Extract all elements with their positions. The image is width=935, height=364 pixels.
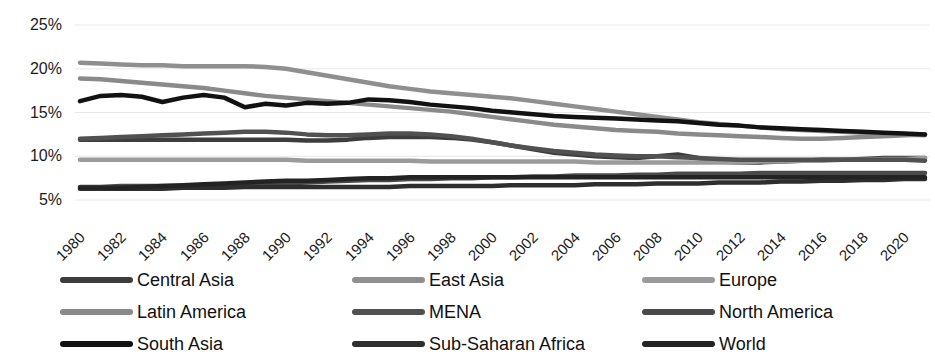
y-tick-label: 15% (30, 105, 62, 121)
legend-label: Central Asia (137, 271, 234, 289)
legend-swatch-icon (60, 341, 133, 347)
plot-canvas (75, 0, 930, 215)
legend-item[interactable]: Latin America (60, 303, 352, 321)
x-tick-label: 2002 (507, 229, 541, 263)
legend-label: Europe (719, 271, 777, 289)
x-tick-label: 2020 (878, 229, 912, 263)
legend-item[interactable]: Europe (642, 271, 880, 289)
y-axis-labels: 25%20%15%10%5% (0, 0, 70, 215)
x-tick-label: 1988 (218, 229, 252, 263)
legend-item[interactable]: North America (642, 303, 880, 321)
legend-label: North America (719, 303, 833, 321)
x-tick-label: 1998 (424, 229, 458, 263)
x-tick-label: 2006 (589, 229, 623, 263)
x-tick-label: 1996 (383, 229, 417, 263)
x-tick-label: 1994 (342, 229, 376, 263)
y-tick-label: 20% (30, 61, 62, 77)
x-tick-label: 1980 (53, 229, 87, 263)
x-tick-label: 2010 (671, 229, 705, 263)
x-tick-label: 1984 (136, 229, 170, 263)
legend-item[interactable]: South Asia (60, 335, 352, 353)
chart-legend: Central AsiaEast AsiaEuropeLatin America… (60, 264, 880, 360)
legend-swatch-icon (642, 341, 715, 347)
x-tick-label: 1986 (177, 229, 211, 263)
x-tick-label: 2018 (836, 229, 870, 263)
legend-item[interactable]: MENA (352, 303, 642, 321)
legend-swatch-icon (642, 277, 715, 283)
x-tick-label: 2012 (713, 229, 747, 263)
legend-item[interactable]: World (642, 335, 880, 353)
legend-label: MENA (429, 303, 481, 321)
y-tick-label: 10% (30, 148, 62, 164)
x-tick-label: 2008 (630, 229, 664, 263)
plot-area: 25%20%15%10%5% (0, 0, 935, 215)
y-tick-label: 5% (39, 192, 62, 208)
legend-swatch-icon (352, 277, 425, 283)
legend-item[interactable]: Central Asia (60, 271, 352, 289)
x-tick-label: 2016 (795, 229, 829, 263)
legend-swatch-icon (60, 309, 133, 315)
legend-swatch-icon (642, 309, 715, 315)
x-tick-label: 2000 (465, 229, 499, 263)
legend-label: South Asia (137, 335, 223, 353)
x-axis-labels: 1980198219841986198819901992199419961998… (75, 206, 930, 264)
x-tick-label: 1992 (300, 229, 334, 263)
x-tick-label: 1990 (259, 229, 293, 263)
legend-item[interactable]: Sub-Saharan Africa (352, 335, 642, 353)
series-line-south-asia (80, 95, 925, 134)
x-tick-label: 2004 (548, 229, 582, 263)
legend-label: East Asia (429, 271, 504, 289)
legend-swatch-icon (352, 341, 425, 347)
legend-item[interactable]: East Asia (352, 271, 642, 289)
legend-label: Sub-Saharan Africa (429, 335, 585, 353)
x-tick-label: 2014 (754, 229, 788, 263)
legend-swatch-icon (352, 309, 425, 315)
series-line-east-asia (80, 63, 925, 136)
x-tick-label: 1982 (94, 229, 128, 263)
line-chart: 25%20%15%10%5% 1980198219841986198819901… (0, 0, 935, 364)
legend-label: Latin America (137, 303, 246, 321)
series-lines (75, 0, 930, 215)
y-tick-label: 25% (30, 17, 62, 33)
legend-label: World (719, 335, 766, 353)
legend-swatch-icon (60, 277, 133, 283)
